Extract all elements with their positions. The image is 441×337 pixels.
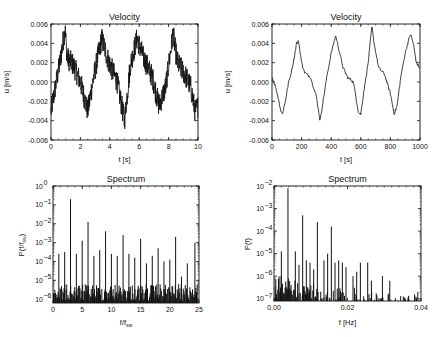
svg-text:0: 0 xyxy=(51,306,55,313)
svg-text:10: 10 xyxy=(256,183,264,190)
svg-text:−2: −2 xyxy=(44,217,52,224)
svg-text:15: 15 xyxy=(137,306,145,313)
svg-text:0.002: 0.002 xyxy=(30,59,48,66)
svg-text:4: 4 xyxy=(108,143,112,150)
svg-text:10: 10 xyxy=(35,201,43,208)
svg-text:0.000: 0.000 xyxy=(30,79,48,86)
svg-text:2: 2 xyxy=(78,143,82,150)
svg-text:400: 400 xyxy=(325,143,337,150)
svg-text:−6: −6 xyxy=(44,292,52,299)
svg-text:−5: −5 xyxy=(44,273,52,280)
svg-text:0.02: 0.02 xyxy=(341,304,355,311)
svg-text:10: 10 xyxy=(35,277,43,284)
y-axis-label: P(f/fsw) xyxy=(17,233,27,256)
svg-text:10: 10 xyxy=(256,205,264,212)
chart-title: Velocity xyxy=(109,12,141,22)
svg-text:-0.002: -0.002 xyxy=(249,98,269,105)
spectrum-right-bars xyxy=(275,188,420,301)
svg-text:10: 10 xyxy=(256,295,264,302)
svg-text:800: 800 xyxy=(385,143,397,150)
svg-text:−3: −3 xyxy=(44,236,52,243)
svg-text:10: 10 xyxy=(194,143,202,150)
svg-text:25: 25 xyxy=(195,306,203,313)
plot-frame xyxy=(53,186,199,303)
svg-text:10: 10 xyxy=(256,273,264,280)
svg-text:−4: −4 xyxy=(44,254,52,261)
svg-text:10: 10 xyxy=(35,258,43,265)
x-axis-label: t [s] xyxy=(340,155,352,164)
svg-text:0: 0 xyxy=(270,143,274,150)
y-axis-label: u [m/s] xyxy=(2,71,11,94)
svg-text:20: 20 xyxy=(166,306,174,313)
svg-text:0.006: 0.006 xyxy=(251,21,269,28)
svg-text:-0.004: -0.004 xyxy=(28,117,48,124)
chart-title: Spectrum xyxy=(328,174,367,184)
svg-text:10: 10 xyxy=(35,220,43,227)
y-axis-label: u [m/s] xyxy=(223,71,232,94)
svg-text:600: 600 xyxy=(355,143,367,150)
svg-text:−2: −2 xyxy=(265,179,273,186)
svg-text:−7: −7 xyxy=(265,292,273,299)
svg-text:0: 0 xyxy=(49,143,53,150)
chart-title: Spectrum xyxy=(107,174,146,184)
plot-frame xyxy=(274,186,421,301)
svg-text:0.04: 0.04 xyxy=(414,304,428,311)
svg-text:−3: −3 xyxy=(265,202,273,209)
svg-text:0.00: 0.00 xyxy=(267,304,281,311)
spectrum-left-bars xyxy=(54,199,198,303)
plot-frame xyxy=(272,24,420,140)
svg-text:10: 10 xyxy=(108,306,116,313)
figure: Velocity 0246810-0.006-0.004-0.0020.0000… xyxy=(0,0,441,337)
svg-text:−4: −4 xyxy=(265,224,273,231)
svg-text:10: 10 xyxy=(256,250,264,257)
velocity-line xyxy=(51,26,198,129)
velocity-line xyxy=(272,27,420,120)
svg-text:0.004: 0.004 xyxy=(30,40,48,47)
svg-text:10: 10 xyxy=(256,228,264,235)
panel-velocity-right: Velocity 02004006008001000-0.006-0.004-0… xyxy=(223,12,428,164)
svg-text:0.004: 0.004 xyxy=(251,40,269,47)
svg-text:1000: 1000 xyxy=(412,143,428,150)
x-axis-label: t [s] xyxy=(118,155,130,164)
svg-text:−6: −6 xyxy=(265,269,273,276)
svg-text:0.002: 0.002 xyxy=(251,59,269,66)
svg-text:6: 6 xyxy=(137,143,141,150)
svg-text:-0.004: -0.004 xyxy=(249,117,269,124)
x-axis-label: f [Hz] xyxy=(339,318,357,327)
axis-ticks: 02004006008001000-0.006-0.004-0.0020.000… xyxy=(249,21,428,151)
velocity-right-trace xyxy=(272,27,420,120)
svg-text:-0.006: -0.006 xyxy=(249,137,269,144)
svg-text:10: 10 xyxy=(35,296,43,303)
panel-spectrum-left: Spectrum 051015202510010−110−210−310−410… xyxy=(17,174,203,328)
svg-text:5: 5 xyxy=(80,306,84,313)
velocity-left-trace xyxy=(51,26,198,129)
y-axis-label: P(f) xyxy=(243,237,252,250)
svg-text:0.000: 0.000 xyxy=(251,79,269,86)
svg-text:200: 200 xyxy=(296,143,308,150)
panel-velocity-left: Velocity 0246810-0.006-0.004-0.0020.0000… xyxy=(2,12,202,164)
svg-text:−1: −1 xyxy=(44,198,52,205)
svg-text:0.006: 0.006 xyxy=(30,21,48,28)
svg-text:0: 0 xyxy=(44,179,48,186)
svg-text:-0.002: -0.002 xyxy=(28,98,48,105)
svg-text:-0.006: -0.006 xyxy=(28,137,48,144)
chart-title: Velocity xyxy=(330,12,362,22)
svg-text:−5: −5 xyxy=(265,247,273,254)
svg-text:10: 10 xyxy=(35,183,43,190)
x-axis-label: f/fsw xyxy=(120,318,133,328)
svg-text:10: 10 xyxy=(35,239,43,246)
svg-text:8: 8 xyxy=(167,143,171,150)
panel-spectrum-right: Spectrum 0.000.020.0410−210−310−410−510−… xyxy=(243,174,428,327)
